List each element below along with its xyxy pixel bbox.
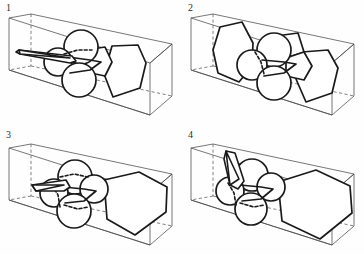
figure-root: 1 <box>0 0 364 254</box>
panel-stage-1: 1 <box>0 0 182 127</box>
panel-label-4: 4 <box>188 129 193 140</box>
hexagonal-grain-3 <box>104 172 167 235</box>
panel-stage-2: 2 <box>182 0 364 127</box>
panel-4-drawing <box>182 127 364 254</box>
sphere-bottom-1 <box>62 63 96 97</box>
panel-1-drawing <box>0 0 182 127</box>
panel-label-3: 3 <box>6 129 11 140</box>
hexagonal-grain-4 <box>278 170 352 239</box>
panel-stage-3: 3 <box>0 127 182 254</box>
hexagonal-grain-1 <box>104 45 146 97</box>
panel-stage-4: 4 <box>182 127 364 254</box>
panel-3-drawing <box>0 127 182 254</box>
panel-2-drawing <box>182 0 364 127</box>
sphere-rosette-3 <box>40 160 108 228</box>
panel-label-2: 2 <box>188 2 193 13</box>
panel-label-1: 1 <box>6 2 11 13</box>
